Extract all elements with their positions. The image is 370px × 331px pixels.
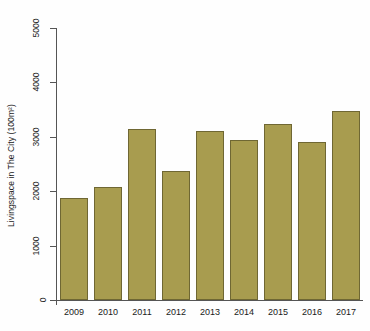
x-axis-tick-label: 2017	[326, 305, 366, 319]
y-axis-tick-label: 1000	[0, 240, 46, 252]
bar	[298, 142, 325, 300]
y-axis-title: Livingspace in The City (100m²)	[0, 0, 22, 331]
bar	[162, 171, 189, 300]
bar	[60, 198, 87, 300]
y-axis-tick-label: 4000	[0, 76, 46, 88]
bar	[128, 129, 155, 300]
y-axis-tick	[50, 300, 56, 301]
bar	[264, 124, 291, 300]
y-axis-tick-label: 2000	[0, 185, 46, 197]
plot-area	[57, 28, 363, 300]
bar	[94, 187, 121, 300]
y-axis-tick	[50, 82, 56, 83]
y-axis-tick	[50, 28, 56, 29]
y-axis-tick-label: 5000	[0, 22, 46, 34]
bar	[196, 131, 223, 300]
bar-chart: Livingspace in The City (100m²) 01000200…	[0, 0, 370, 331]
bar	[332, 111, 359, 300]
y-axis-tick	[50, 191, 56, 192]
y-axis-tick	[50, 246, 56, 247]
bar	[230, 140, 257, 300]
y-axis-tick-label: 0	[0, 294, 46, 306]
y-axis-tick-label: 3000	[0, 131, 46, 143]
y-axis-tick	[50, 137, 56, 138]
x-axis-line	[56, 300, 363, 301]
